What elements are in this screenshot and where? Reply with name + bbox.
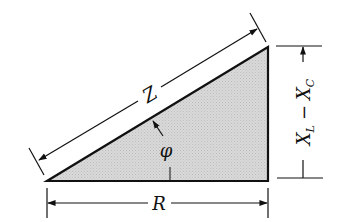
xl-sub: L [304, 125, 317, 133]
svg-text:XL−XC: XL−XC [293, 78, 317, 147]
reactance-label: XL−XC [293, 78, 317, 147]
z-extension-top [250, 13, 266, 42]
z-label: Z [137, 81, 161, 108]
r-label: R [151, 193, 166, 214]
xc-main: X [293, 86, 314, 102]
phi-label: φ [160, 140, 173, 161]
impedance-triangle-diagram: Z φ R XL−XC [0, 0, 348, 222]
minus-sign: − [293, 105, 314, 120]
z-extension-bottom [29, 148, 44, 175]
xc-sub: C [304, 78, 317, 87]
xl-main: X [293, 131, 314, 147]
triangle-shape [47, 47, 268, 181]
